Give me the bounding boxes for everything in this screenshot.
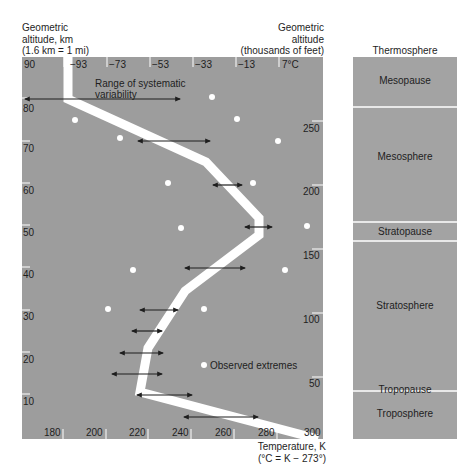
- top-tick-label: −93: [70, 59, 87, 70]
- layer-troposphere: Troposphere: [353, 408, 457, 419]
- layer-stratopause: Stratopause: [353, 226, 457, 237]
- left-tick-label: 20: [23, 354, 34, 365]
- layer-mesopause: Mesopause: [353, 75, 457, 86]
- x-axis-caption-line: Temperature, K: [258, 441, 326, 453]
- left-tick-label: 80: [23, 103, 34, 114]
- bottom-tick-label: 280: [258, 427, 275, 438]
- right-tick-label: 300: [304, 427, 321, 438]
- top-tick-label: −53: [152, 59, 169, 70]
- layer-stratosphere: Stratosphere: [353, 300, 457, 311]
- variability-annotation-line: Range of systematic: [95, 78, 186, 89]
- top-tick-label: −73: [109, 59, 126, 70]
- bottom-tick-label: 260: [215, 427, 232, 438]
- right-tick-label: 100: [303, 314, 320, 325]
- layer-panel: [353, 57, 457, 439]
- x-axis-caption: Temperature, K (°C = K − 273°): [258, 441, 326, 464]
- left-tick-label: 40: [23, 269, 34, 280]
- right-tick-label: 50: [309, 378, 320, 389]
- top-tick-label: −33: [195, 59, 212, 70]
- top-corner-label: 90: [24, 59, 35, 70]
- variability-annotation-line: variability: [95, 89, 186, 100]
- left-tick-label: 50: [23, 227, 34, 238]
- bottom-tick-label: 180: [44, 427, 61, 438]
- observed-extremes-legend: Observed extremes: [210, 360, 297, 371]
- plot-area: [22, 57, 323, 439]
- bottom-tick-label: 240: [172, 427, 189, 438]
- left-tick-label: 30: [23, 311, 34, 322]
- right-tick-label: 150: [303, 250, 320, 261]
- left-tick-label: 70: [23, 143, 34, 154]
- top-tick-label: 7°C: [282, 59, 299, 70]
- layer-tropopause: Tropopause: [353, 384, 457, 395]
- bottom-tick-label: 200: [86, 427, 103, 438]
- variability-annotation: Range of systematic variability: [95, 78, 186, 100]
- temperature-profile-chart: [0, 0, 474, 475]
- x-axis-caption-line: (°C = K − 273°): [258, 453, 326, 465]
- layer-mesosphere: Mesosphere: [353, 151, 457, 162]
- right-tick-label: 250: [303, 123, 320, 134]
- left-tick-label: 60: [23, 185, 34, 196]
- left-tick-label: 10: [23, 396, 34, 407]
- top-tick-label: −13: [238, 59, 255, 70]
- right-tick-label: 200: [303, 186, 320, 197]
- bottom-tick-label: 220: [129, 427, 146, 438]
